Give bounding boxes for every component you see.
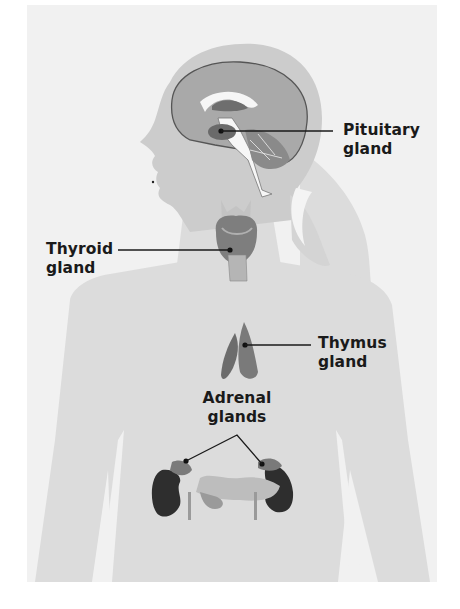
label-thyroid-line2: gland — [46, 259, 113, 278]
label-thyroid-line1: Thyroid — [46, 240, 113, 259]
label-adrenal-glands: Adrenal glands — [197, 389, 277, 427]
label-adrenal-line1: Adrenal — [197, 389, 277, 408]
label-pituitary-line1: Pituitary — [343, 121, 420, 140]
label-thymus-gland: Thymus gland — [318, 334, 387, 372]
label-pituitary-line2: gland — [343, 140, 420, 159]
label-adrenal-line2: glands — [197, 408, 277, 427]
label-pituitary-gland: Pituitary gland — [343, 121, 420, 159]
body-silhouette-illustration — [0, 0, 460, 609]
label-thymus-line2: gland — [318, 353, 387, 372]
label-thyroid-gland: Thyroid gland — [46, 240, 113, 278]
label-thymus-line1: Thymus — [318, 334, 387, 353]
